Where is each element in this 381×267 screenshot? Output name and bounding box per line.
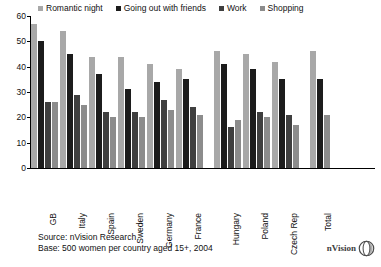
y-tick-label: 40	[4, 63, 26, 71]
legend-label: Going out with friends	[124, 4, 206, 13]
bar	[190, 107, 196, 168]
bar	[286, 115, 292, 168]
bar	[293, 125, 299, 168]
chart-plot-area: 0102030405060	[30, 16, 375, 168]
bar	[38, 41, 44, 168]
bar	[235, 120, 241, 168]
bar	[176, 69, 182, 168]
y-tick-mark	[27, 41, 30, 42]
bar	[118, 57, 124, 168]
y-tick-mark	[27, 92, 30, 93]
bar-group	[118, 16, 145, 168]
bar	[161, 100, 167, 168]
bar	[81, 105, 87, 168]
bar	[243, 54, 249, 168]
y-tick-label: 50	[4, 37, 26, 45]
x-tick-label: GB	[49, 213, 58, 225]
bar	[279, 79, 285, 168]
bar	[96, 74, 102, 168]
bar-group	[31, 16, 58, 168]
bar	[147, 64, 153, 168]
legend-swatch-icon	[260, 6, 265, 11]
bar	[221, 64, 227, 168]
bar	[264, 117, 270, 168]
x-tick-label: Total	[324, 213, 333, 231]
base-note: Base: 500 women per country aged 15+, 20…	[38, 243, 298, 254]
bar	[132, 112, 138, 168]
bar	[310, 51, 316, 168]
group-spacer	[205, 16, 214, 168]
bar	[139, 117, 145, 168]
bar	[183, 79, 189, 168]
legend-swatch-icon	[219, 6, 224, 11]
nvision-logo: nVision	[319, 235, 375, 261]
source-note: Source: nVision Research	[38, 232, 298, 243]
group-spacer	[301, 16, 310, 168]
bar-group	[310, 16, 330, 168]
bar	[197, 115, 203, 168]
y-tick-label: 30	[4, 88, 26, 96]
bar-groups	[31, 16, 375, 168]
bar	[257, 112, 263, 168]
bar	[89, 57, 95, 168]
bar	[168, 110, 174, 168]
bar	[74, 95, 80, 168]
bar	[45, 102, 51, 168]
bar	[214, 51, 220, 168]
y-tick-label: 60	[4, 12, 26, 20]
bar	[272, 62, 278, 168]
bar	[60, 31, 66, 168]
legend-item: Work	[219, 4, 247, 13]
legend-item: Shopping	[260, 4, 304, 13]
legend-label: Work	[227, 4, 247, 13]
bar	[67, 54, 73, 168]
bar-group	[243, 16, 270, 168]
legend-swatch-icon	[116, 6, 121, 11]
bar	[103, 112, 109, 168]
bar	[110, 117, 116, 168]
sphere-icon	[358, 240, 375, 257]
chart-footer: Source: nVision Research Base: 500 women…	[38, 232, 298, 254]
legend-label: Romantic night	[46, 4, 103, 13]
bar	[125, 89, 131, 168]
bar	[228, 127, 234, 168]
legend-item: Going out with friends	[116, 4, 206, 13]
bar-group	[60, 16, 87, 168]
bar-group	[176, 16, 203, 168]
bar-group	[89, 16, 116, 168]
y-tick-mark	[27, 168, 30, 169]
x-axis-line	[30, 168, 375, 169]
bar	[317, 79, 323, 168]
y-tick-mark	[27, 16, 30, 17]
y-tick-label: 20	[4, 113, 26, 121]
bar	[31, 24, 37, 168]
bar-group	[272, 16, 299, 168]
bar	[154, 82, 160, 168]
legend-swatch-icon	[38, 6, 43, 11]
bar	[250, 69, 256, 168]
x-tick-label: Italy	[78, 213, 87, 229]
bar	[324, 115, 330, 168]
bar-group	[147, 16, 174, 168]
bar	[52, 102, 58, 168]
chart-legend: Romantic nightGoing out with friendsWork…	[38, 2, 378, 15]
legend-label: Shopping	[268, 4, 304, 13]
y-tick-mark	[27, 117, 30, 118]
logo-text: nVision	[327, 243, 356, 253]
y-tick-label: 10	[4, 139, 26, 147]
x-axis-labels: GBItalySpainSwedenGermanyFranceHungaryPo…	[31, 171, 376, 215]
legend-item: Romantic night	[38, 4, 103, 13]
y-tick-label: 0	[4, 164, 26, 172]
y-tick-mark	[27, 67, 30, 68]
y-tick-mark	[27, 143, 30, 144]
bar-group	[214, 16, 241, 168]
